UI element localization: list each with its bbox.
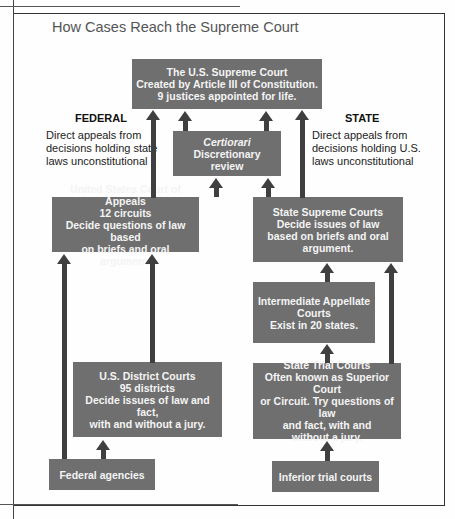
arrow-shaft: [389, 272, 394, 364]
note-line: Direct appeals from: [46, 129, 157, 142]
box-line: Decide issues of law and fact,: [77, 394, 218, 418]
state-heading: STATE: [345, 112, 379, 124]
arrow-up-icon: [295, 110, 309, 120]
box-line: State Supreme Courts: [273, 206, 383, 218]
box-line: Decide questions of law based: [56, 219, 195, 243]
box-line: based on briefs and oral: [267, 230, 388, 242]
box-federal-agencies: Federal agencies: [49, 459, 155, 490]
box-line: Courts: [297, 307, 331, 319]
box-line: Discretionary: [193, 148, 260, 160]
box-line: review: [211, 160, 244, 172]
arrow-up-icon: [96, 440, 110, 450]
arrow-shaft: [325, 353, 330, 363]
arrow-shaft: [325, 450, 330, 461]
diagram-title: How Cases Reach the Supreme Court: [52, 19, 299, 35]
arrow-shaft: [214, 187, 219, 197]
box-inferior-trial-courts: Inferior trial courts: [272, 461, 379, 492]
box-district-courts: U.S. District Courts 95 districts Decide…: [73, 362, 222, 437]
arrow-shaft: [62, 263, 67, 459]
arrow-shaft: [101, 449, 106, 459]
note-line: decisions holding state: [46, 142, 157, 155]
arrow-shaft: [300, 118, 305, 198]
arrow-up-icon: [320, 344, 334, 354]
box-line: Inferior trial courts: [279, 471, 372, 483]
box-line: with and without a jury.: [90, 418, 206, 430]
box-supreme-court: The U.S. Supreme Court Created by Articl…: [132, 59, 322, 109]
box-certiorari: Certiorari Discretionary review: [173, 131, 281, 176]
box-state-supreme-courts: State Supreme Courts Decide issues of la…: [253, 197, 403, 262]
footer-rule: [0, 504, 238, 505]
federal-note: Direct appeals from decisions holding st…: [46, 129, 157, 168]
box-line: Federal agencies: [59, 469, 144, 481]
box-line: Certiorari: [203, 136, 250, 148]
note-line: laws unconstitutional: [312, 155, 421, 168]
box-line: 95 districts: [120, 382, 175, 394]
box-intermediate-appellate: Intermediate Appellate Courts Exist in 2…: [253, 282, 375, 343]
arrow-shaft: [266, 187, 271, 197]
arrow-up-icon: [320, 263, 334, 273]
box-court-of-appeals: United States Court of Appeals 12 circui…: [52, 197, 199, 252]
box-line: Often known as Superior Court: [257, 371, 397, 395]
note-line: decisions holding U.S.: [312, 142, 421, 155]
box-line: Intermediate Appellate: [258, 295, 370, 307]
arrow-up-icon: [384, 263, 398, 273]
box-line: on briefs and oral argument.: [56, 243, 195, 267]
arrow-up-icon: [145, 254, 159, 264]
box-line: 12 circuits: [100, 207, 152, 219]
arrow-up-icon: [178, 111, 192, 121]
box-line: U.S. District Courts: [99, 370, 195, 382]
header-underline: [0, 6, 240, 7]
box-line: The U.S. Supreme Court: [167, 66, 288, 78]
arrow-shaft: [151, 118, 156, 198]
box-line: United States Court of Appeals: [56, 183, 195, 207]
arrow-up-icon: [261, 178, 275, 188]
state-note: Direct appeals from decisions holding U.…: [312, 129, 421, 168]
box-line: or Circuit. Try questions of law: [257, 395, 397, 419]
arrow-shaft: [325, 272, 330, 282]
arrow-up-icon: [57, 254, 71, 264]
box-line: Exist in 20 states.: [270, 319, 358, 331]
box-line: 9 justices appointed for life.: [158, 90, 297, 102]
arrow-shaft: [150, 263, 155, 363]
arrow-up-icon: [320, 441, 334, 451]
box-line: argument.: [303, 242, 354, 254]
box-state-trial-courts: State Trial Courts Often known as Superi…: [253, 363, 401, 439]
note-line: Direct appeals from: [312, 129, 421, 142]
federal-heading: FEDERAL: [75, 112, 127, 124]
arrow-up-icon: [209, 178, 223, 188]
arrow-up-icon: [146, 110, 160, 120]
arrow-up-icon: [259, 111, 273, 121]
note-line: laws unconstitutional: [46, 155, 157, 168]
box-line: Created by Article III of Constitution.: [136, 78, 318, 90]
box-line: Decide issues of law: [277, 218, 380, 230]
box-line: and fact, with and: [283, 419, 372, 431]
